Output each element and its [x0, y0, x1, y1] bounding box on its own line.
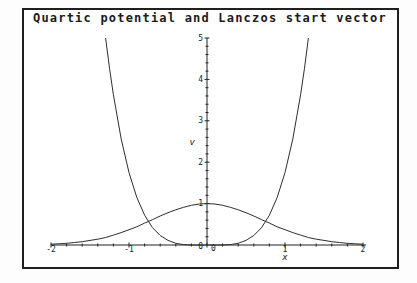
- origin-y-label: 0: [198, 242, 203, 251]
- x-axis-name: x: [281, 252, 288, 262]
- y-axis-name: v: [190, 137, 196, 147]
- figure: Quartic potential and Lanczos start vect…: [0, 0, 417, 283]
- x-tick-label: 2: [361, 245, 366, 254]
- y-tick-label: 4: [198, 75, 203, 84]
- y-tick-label: 3: [198, 116, 203, 125]
- y-tick-label: 2: [198, 158, 203, 167]
- x-tick-label: -1: [124, 245, 134, 254]
- y-tick-label: 5: [198, 34, 203, 43]
- chart-canvas: -2-1121234500vx: [0, 0, 417, 283]
- x-tick-label: -2: [46, 245, 56, 254]
